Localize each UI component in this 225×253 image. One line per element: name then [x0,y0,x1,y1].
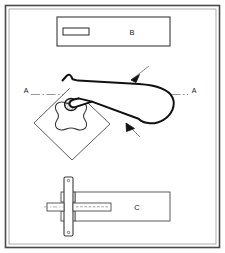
figure-container: B A A [0,0,225,253]
view-label-c: C [134,203,140,212]
b-inner-slot [63,28,89,35]
horizontal-shaft [73,203,111,211]
flange-bottom-hole [67,231,69,233]
top-view-b: B [57,17,170,46]
section-label-a-left: A [24,87,29,94]
flange-top-hole [67,179,69,181]
view-label-b: B [129,28,134,37]
technical-drawing-svg: B A A [0,0,225,253]
vertical-flange-plate [64,177,73,236]
section-label-a-right: A [192,87,197,94]
